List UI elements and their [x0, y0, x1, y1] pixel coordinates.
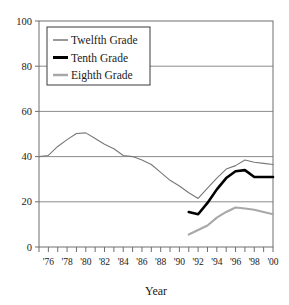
x-tick-label-1982: '82 [99, 257, 110, 267]
legend-label-twelfth-grade: Twelfth Grade [71, 34, 138, 46]
x-tick-label-1996: '96 [230, 257, 241, 267]
series-line-twelfth-grade [39, 133, 273, 199]
x-tick-label-1986: '86 [136, 257, 147, 267]
y-tick-label-40: 40 [22, 151, 33, 162]
y-tick-marks [35, 21, 39, 247]
series-line-tenth-grade [189, 170, 273, 214]
chart-legend: Twelfth GradeTenth GradeEighth Grade [47, 27, 150, 85]
line-chart-figure: 020406080100 '76'78'80'82'84'86'88'90'92… [0, 0, 289, 305]
x-tick-label-1980: '80 [80, 257, 91, 267]
x-tick-label-1990: '90 [174, 257, 185, 267]
x-tick-label-1984: '84 [118, 257, 129, 267]
gridlines-group [39, 66, 273, 202]
legend-label-eighth-grade: Eighth Grade [71, 69, 133, 82]
y-tick-label-0: 0 [27, 242, 32, 253]
x-axis-title: Year [145, 284, 167, 298]
y-tick-labels: 020406080100 [16, 16, 32, 253]
x-tick-marks [39, 247, 273, 252]
x-tick-labels: '76'78'80'82'84'86'88'90'92'94'96'98'00 [43, 257, 279, 267]
x-tick-label-1976: '76 [43, 257, 54, 267]
x-tick-label-1998: '98 [249, 257, 260, 267]
y-tick-label-80: 80 [22, 61, 33, 72]
data-series-group [39, 133, 273, 235]
legend-label-tenth-grade: Tenth Grade [71, 52, 128, 64]
chart-svg: 020406080100 '76'78'80'82'84'86'88'90'92… [0, 0, 289, 305]
x-tick-label-1992: '92 [193, 257, 204, 267]
x-tick-label-1988: '88 [155, 257, 166, 267]
x-tick-label-1994: '94 [211, 257, 222, 267]
y-tick-label-60: 60 [22, 106, 33, 117]
y-tick-label-100: 100 [16, 16, 32, 27]
x-tick-label-1978: '78 [61, 257, 72, 267]
x-tick-label-2000: '00 [267, 257, 278, 267]
y-tick-label-20: 20 [22, 196, 33, 207]
